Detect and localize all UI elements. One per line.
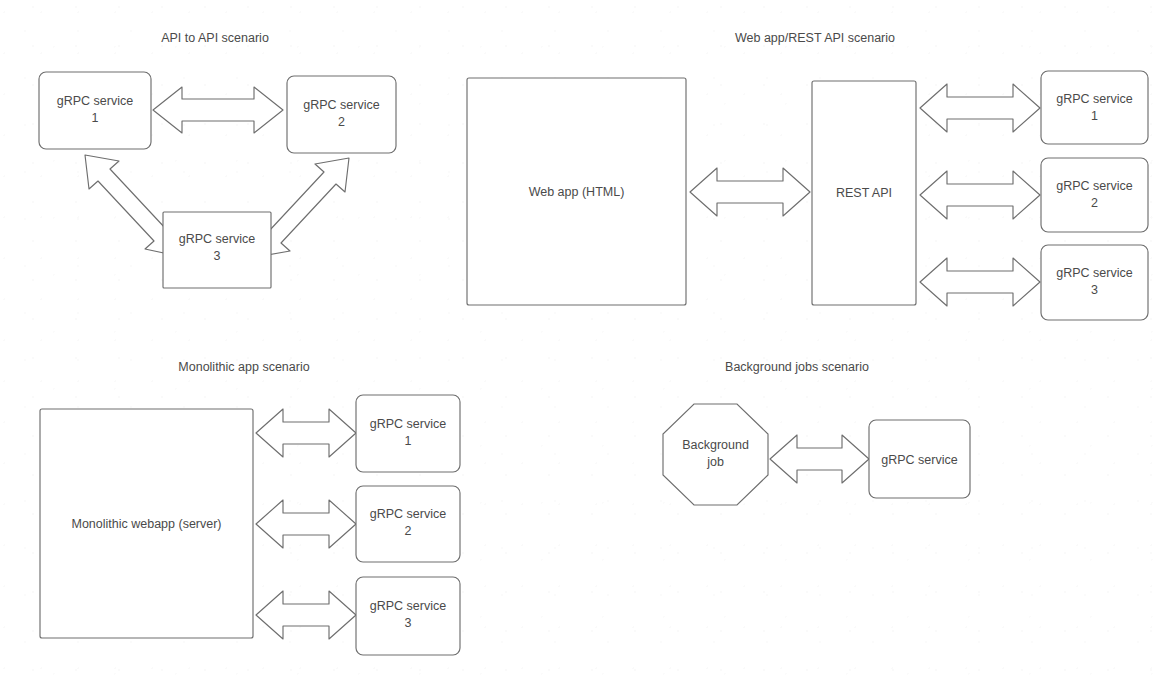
- connector-monolith-grpc1[interactable]: [256, 409, 356, 457]
- node-grpc-service-3-label-line1: gRPC service: [179, 232, 255, 246]
- connector-restapi-grpc1[interactable]: [920, 84, 1040, 132]
- node-background-grpc-service-label: gRPC service: [881, 453, 957, 467]
- scenario-monolithic-app: Monolithic app scenario Monolithic webap…: [40, 360, 460, 655]
- scenario-webapp-rest-api: Web app/REST API scenario Web app (HTML)…: [467, 31, 1148, 320]
- node-monolithic-webapp-label: Monolithic webapp (server): [71, 517, 221, 531]
- diagram-canvas: API to API scenario gRPC service 1 gRPC …: [0, 0, 1176, 683]
- node-monolith-grpc-service-1-label-line2: 1: [405, 434, 412, 448]
- scenario-background-jobs: Background jobs scenario Background job …: [663, 360, 970, 505]
- node-webapp-grpc-service-1[interactable]: [1041, 71, 1148, 144]
- scenario-title-webapp-rest-api: Web app/REST API scenario: [735, 31, 895, 45]
- node-webapp-grpc-service-1-label-line2: 1: [1091, 109, 1098, 123]
- scenario-title-background-jobs: Background jobs scenario: [725, 360, 869, 374]
- connector-webapp-restapi[interactable]: [690, 168, 810, 216]
- connector-monolith-grpc3[interactable]: [256, 591, 356, 639]
- node-monolith-grpc-service-2-label-line2: 2: [405, 524, 412, 538]
- connector-restapi-grpc2[interactable]: [920, 171, 1040, 219]
- connector-monolith-grpc2[interactable]: [256, 500, 356, 548]
- node-monolith-grpc-service-3-label-line1: gRPC service: [370, 599, 446, 613]
- node-grpc-service-2-label-line2: 2: [338, 115, 345, 129]
- scenario-title-api-to-api: API to API scenario: [161, 31, 269, 45]
- node-background-job-label-line2: job: [706, 455, 724, 469]
- node-webapp-grpc-service-2[interactable]: [1041, 158, 1148, 232]
- node-grpc-service-2-label-line1: gRPC service: [303, 98, 379, 112]
- node-web-app-label: Web app (HTML): [529, 185, 625, 199]
- connector-bgjob-grpc[interactable]: [770, 435, 869, 483]
- node-grpc-service-1-label-line2: 1: [92, 111, 99, 125]
- node-webapp-grpc-service-1-label-line1: gRPC service: [1056, 92, 1132, 106]
- node-monolith-grpc-service-1-label-line1: gRPC service: [370, 417, 446, 431]
- scenario-api-to-api: API to API scenario gRPC service 1 gRPC …: [39, 31, 396, 288]
- node-background-job-label-line1: Background: [682, 438, 749, 452]
- node-webapp-grpc-service-2-label-line2: 2: [1091, 196, 1098, 210]
- node-monolith-grpc-service-3-label-line2: 3: [405, 616, 412, 630]
- scenario-title-monolithic-app: Monolithic app scenario: [178, 360, 309, 374]
- node-webapp-grpc-service-3-label-line1: gRPC service: [1056, 266, 1132, 280]
- node-monolith-grpc-service-2-label-line1: gRPC service: [370, 507, 446, 521]
- connector-grpc1-grpc2[interactable]: [153, 87, 283, 133]
- node-grpc-service-1-label-line1: gRPC service: [57, 94, 133, 108]
- node-rest-api-label: REST API: [836, 186, 892, 200]
- node-grpc-service-3-label-line2: 3: [214, 249, 221, 263]
- node-webapp-grpc-service-2-label-line1: gRPC service: [1056, 179, 1132, 193]
- node-webapp-grpc-service-3-label-line2: 3: [1091, 283, 1098, 297]
- connector-restapi-grpc3[interactable]: [920, 258, 1040, 306]
